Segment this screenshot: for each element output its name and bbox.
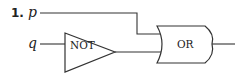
not-gate-label: NOT bbox=[70, 39, 95, 51]
input-label-p: p bbox=[28, 4, 37, 20]
or-gate-label: OR bbox=[177, 38, 195, 50]
not-gate: NOT bbox=[65, 33, 115, 72]
or-gate: OR bbox=[157, 26, 213, 63]
wire-p-to-or bbox=[40, 13, 163, 34]
problem-number: 1. bbox=[11, 6, 24, 20]
logic-circuit-diagram: 1. p q NOT OR bbox=[0, 0, 252, 74]
input-label-q: q bbox=[28, 35, 37, 51]
